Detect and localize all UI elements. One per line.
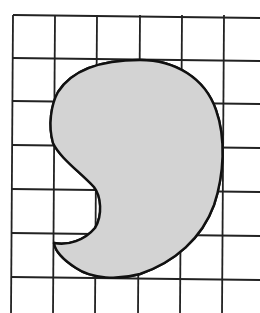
grid-vertical-line (53, 15, 55, 313)
shape-outline (51, 60, 223, 278)
grid-svg (0, 0, 260, 313)
grid-horizontal-line (13, 15, 260, 18)
grid-vertical-line (11, 15, 13, 313)
grid-figure: Irregular shaded bean/comma-shaped figur… (0, 0, 260, 313)
